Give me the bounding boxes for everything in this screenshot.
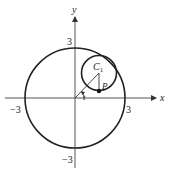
x-axis-label: x: [159, 92, 165, 103]
y-axis-label: y: [71, 4, 77, 15]
label-t: t: [83, 92, 86, 102]
tick-y-pos: 3: [67, 36, 72, 47]
diagram-canvas: y x 3 −3 −3 3 C1 P t: [0, 0, 171, 175]
tick-y-neg: −3: [62, 154, 73, 165]
label-c: C1: [93, 61, 104, 74]
tick-x-pos: 3: [126, 104, 131, 115]
tick-x-neg: −3: [10, 104, 21, 115]
point-p: [97, 89, 101, 93]
radius-line-oc: [75, 73, 99, 98]
label-c-sub: 1: [100, 66, 104, 74]
label-p: P: [101, 81, 108, 91]
